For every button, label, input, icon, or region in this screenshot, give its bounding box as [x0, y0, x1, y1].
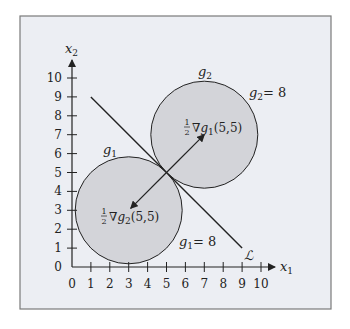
svg-text:8: 8 — [54, 109, 62, 123]
svg-text:3: 3 — [54, 203, 62, 217]
svg-text:4: 4 — [54, 184, 62, 198]
svg-text:8: 8 — [219, 277, 227, 291]
svg-text:1: 1 — [87, 277, 95, 291]
svg-text:∇g1(5,5): ∇g1(5,5) — [192, 121, 242, 137]
svg-text:5: 5 — [54, 166, 62, 180]
svg-text:6: 6 — [54, 147, 62, 161]
svg-text:2: 2 — [101, 217, 106, 226]
line-L-label: ℒ — [244, 248, 254, 263]
svg-text:7: 7 — [54, 128, 62, 142]
svg-text:6: 6 — [182, 277, 190, 291]
svg-text:7: 7 — [200, 277, 208, 291]
constraint-diagram: 0 1 2 3 4 5 6 7 8 9 10 0 1 2 3 4 5 6 7 8… — [0, 0, 350, 329]
svg-text:10: 10 — [253, 277, 268, 291]
svg-text:0: 0 — [54, 260, 62, 274]
svg-text:9: 9 — [238, 277, 246, 291]
svg-text:0: 0 — [68, 277, 76, 291]
svg-text:1: 1 — [54, 241, 62, 255]
svg-text:2: 2 — [54, 222, 62, 236]
svg-text:4: 4 — [144, 277, 152, 291]
grad-g2-annotation: 1 2 ∇g2(5,5) — [101, 207, 159, 226]
svg-text:2: 2 — [106, 277, 114, 291]
svg-text:1: 1 — [101, 207, 106, 216]
svg-text:10: 10 — [47, 71, 62, 85]
g2-level-label: g2= 8 — [249, 85, 286, 102]
svg-text:∇g2(5,5): ∇g2(5,5) — [109, 210, 159, 226]
svg-text:5: 5 — [163, 277, 171, 291]
svg-text:1: 1 — [184, 118, 189, 127]
grad-g1-annotation: 1 2 ∇g1(5,5) — [184, 118, 242, 137]
svg-text:3: 3 — [125, 277, 133, 291]
g1-level-label: g1= 8 — [179, 234, 216, 251]
svg-text:2: 2 — [184, 128, 189, 137]
svg-text:9: 9 — [54, 90, 62, 104]
